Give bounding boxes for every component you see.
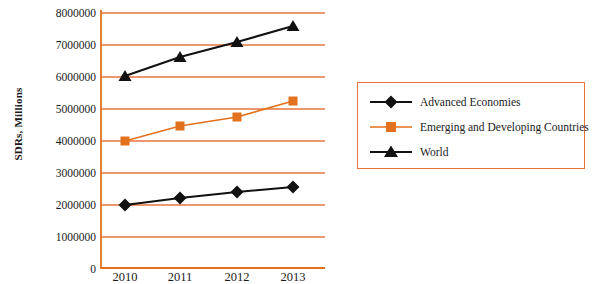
legend-item-advanced-economies[interactable]: Advanced Economies (368, 90, 521, 114)
line-chart-figure: SDRs, Millions 8000000 7000000 6000000 5… (0, 0, 594, 284)
x-tick-label: 2013 (263, 270, 323, 284)
legend-label: Emerging and Developing Countries (420, 121, 589, 133)
diamond-icon (368, 93, 414, 111)
legend-item-emerging-and-developing-countries[interactable]: Emerging and Developing Countries (368, 115, 589, 139)
x-tick-label: 2012 (207, 270, 267, 284)
square-icon (368, 118, 414, 136)
legend-item-world[interactable]: World (368, 140, 448, 164)
x-tick-label: 2010 (95, 270, 155, 284)
legend-label: Advanced Economies (420, 96, 521, 108)
x-tick-label: 2011 (150, 270, 210, 284)
triangle-icon (368, 143, 414, 161)
legend-label: World (420, 146, 448, 158)
chart-legend: Advanced Economies Emerging and Developi… (357, 82, 585, 169)
